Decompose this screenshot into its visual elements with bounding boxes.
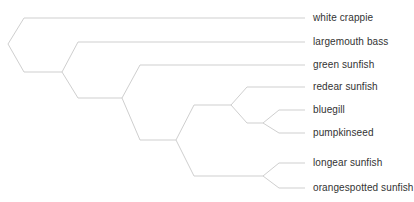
leaf-label-bluegill: bluegill — [313, 104, 345, 116]
branch-F-to-pumpkinseed — [263, 123, 305, 133]
branch-E-to-longear-sunfish — [263, 163, 305, 176]
branch-F-to-bluegill — [263, 110, 305, 123]
branch-root-to-A — [8, 44, 62, 72]
branch-B-to-green-sunfish — [122, 65, 305, 98]
leaf-label-largemouth-bass: largemouth bass — [313, 36, 388, 48]
branch-A-to-B — [62, 72, 122, 98]
leaf-label-green-sunfish: green sunfish — [313, 59, 374, 71]
leaf-label-redear-sunfish: redear sunfish — [313, 81, 378, 93]
leaf-label-longear-sunfish: longear sunfish — [313, 157, 382, 169]
leaf-label-pumpkinseed: pumpkinseed — [313, 127, 374, 139]
branch-A-to-largemouth-bass — [62, 42, 305, 72]
branch-D-to-F — [231, 105, 263, 123]
branch-C-to-D — [176, 105, 231, 140]
leaf-label-orangespotted-sunfish: orangespotted sunfish — [313, 182, 414, 194]
branch-B-to-C — [122, 98, 176, 140]
tree-branches — [8, 18, 305, 188]
branch-C-to-E — [176, 140, 263, 176]
branch-D-to-redear-sunfish — [231, 87, 305, 105]
branch-root-to-white-crappie — [8, 18, 305, 44]
leaf-label-white-crappie: white crappie — [313, 12, 373, 24]
branch-E-to-orangespotted-sunfish — [263, 176, 305, 188]
